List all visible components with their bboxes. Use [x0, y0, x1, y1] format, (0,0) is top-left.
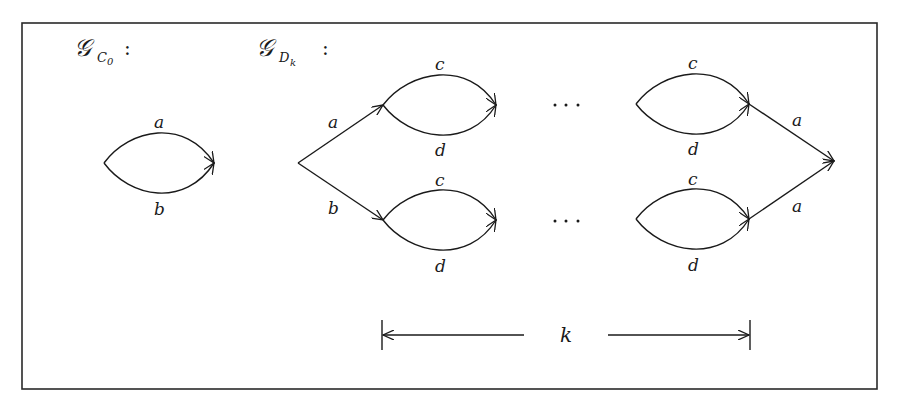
lens-label-upper-last-bottom: d — [688, 139, 699, 159]
ellipsis-upper — [554, 104, 580, 107]
edge-b — [104, 163, 214, 193]
k-span-indicator: k — [382, 320, 750, 350]
graph-dk-title-subscript: D — [278, 50, 290, 65]
lens-label-upper-last-top: c — [688, 53, 698, 73]
edge-a — [104, 133, 214, 163]
edge-upper-last-c — [636, 74, 749, 104]
diagram-figure: 𝒢 C 0 : a b 𝒢 D k : a b c — [0, 0, 899, 410]
graph-c0-title-symbol: 𝒢 — [74, 34, 95, 62]
graph-c0-title: 𝒢 C 0 : — [74, 34, 131, 67]
ellipsis-lower — [554, 220, 580, 223]
lens-label-lower-first-bottom: d — [435, 256, 446, 276]
edge-in-upper-a — [298, 105, 383, 163]
graph-dk-title: 𝒢 D k : — [256, 34, 329, 68]
edge-label-a: a — [154, 112, 164, 132]
graph-dk-title-colon: : — [322, 36, 329, 60]
edge-upper-first-c — [383, 75, 496, 105]
edge-lower-first-c — [383, 190, 496, 220]
graph-dk-title-subsubscript: k — [290, 57, 296, 68]
edge-lower-last-c — [636, 189, 749, 219]
edge-label-b: b — [154, 199, 165, 219]
edge-label-lower-in: b — [328, 198, 339, 218]
edge-lower-last-d — [636, 219, 749, 249]
edge-label-upper-in: a — [328, 112, 338, 132]
lens-label-lower-last-top: c — [688, 169, 698, 189]
graph-c0-title-colon: : — [124, 36, 131, 60]
edge-label-upper-out: a — [792, 110, 802, 130]
edge-upper-last-d — [636, 104, 749, 134]
graph-c0: a b — [104, 112, 214, 219]
lens-label-upper-first-top: c — [435, 54, 445, 74]
span-label-k: k — [560, 323, 572, 347]
lens-label-upper-first-bottom: d — [435, 140, 446, 160]
graph-dk-title-symbol: 𝒢 — [256, 34, 277, 62]
figure-frame — [22, 23, 877, 389]
edge-upper-first-d — [383, 105, 496, 135]
edge-in-lower-b — [298, 163, 383, 220]
graph-dk: a b c d c d — [298, 53, 834, 350]
graph-c0-title-subscript: C — [97, 50, 107, 65]
lens-label-lower-first-top: c — [435, 170, 445, 190]
edge-lower-first-d — [383, 220, 496, 250]
lens-label-lower-last-bottom: d — [688, 255, 699, 275]
edge-label-lower-out: a — [792, 196, 802, 216]
graph-c0-title-subsubscript: 0 — [107, 56, 114, 67]
